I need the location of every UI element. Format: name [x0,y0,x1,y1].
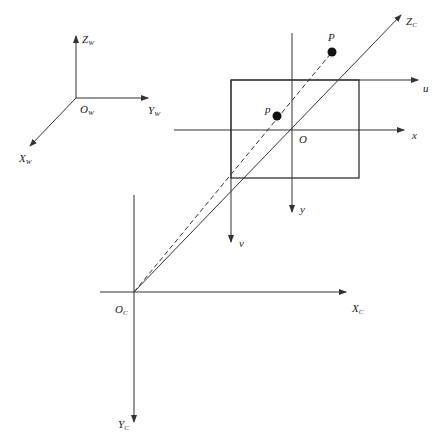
label-image-point: p [264,103,271,115]
label-xw: XW [18,152,33,166]
label-y: y [299,203,305,215]
label-xc: XC [351,302,364,316]
camera-z-axis [134,15,401,292]
label-world-point: P [327,31,335,43]
label-ow: OW [80,103,95,117]
label-u: u [423,82,429,94]
label-yc: YC [118,418,129,432]
label-oc: OC [115,303,128,317]
label-zc: ZC [406,15,417,29]
label-principal-point: O [299,133,307,145]
world-frame [30,36,148,146]
projection-ray [134,52,332,292]
label-zw: ZW [82,33,95,47]
label-x: x [411,129,417,141]
image-plane [231,80,359,178]
label-yw: YW [148,104,161,118]
world-x-axis [30,98,76,146]
label-v: v [239,237,244,249]
world-point-marker [328,48,337,57]
diagram-canvas: ZW YW XW OW u v x y O XC YC ZC OC P p [0,0,443,446]
image-point-marker [273,112,282,121]
